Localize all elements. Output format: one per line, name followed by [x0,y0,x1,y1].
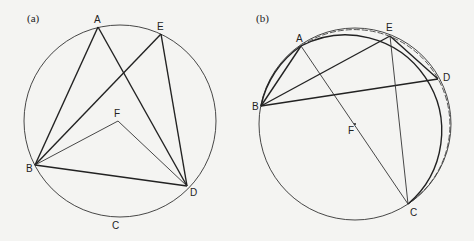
circle-a [24,25,216,217]
arc-AC [301,35,442,204]
point-label-F: F [348,125,354,136]
segment-FB [35,121,118,165]
point-label-D: D [443,72,450,83]
segment-FD [118,121,187,186]
panel-b-label: (b) [256,12,269,25]
point-label-A: A [296,33,303,44]
segment-AC [301,46,408,204]
segment-BD [35,165,187,186]
point-label-A: A [94,14,101,25]
center-dot-F [354,123,356,125]
segment-AB [35,27,98,165]
point-label-F: F [114,108,120,119]
point-label-D: D [190,187,197,198]
panel-a: (a) A E B D F C [24,12,216,231]
point-label-C: C [410,207,417,218]
segment-EC [390,36,408,204]
dashed-arc [301,30,450,204]
segment-EB [35,34,161,165]
point-label-B: B [252,101,259,112]
point-label-C: C [112,220,119,231]
segment-ED [390,36,438,79]
point-label-E: E [386,22,393,33]
segment-BD [261,79,438,106]
point-label-E: E [157,21,164,32]
panel-a-label: (a) [27,12,40,25]
panel-b: (b) A E D B F C [252,12,451,220]
geometry-figure: (a) A E B D F C (b) A E D B F C [0,0,474,241]
segment-BA [261,46,301,106]
point-label-B: B [26,163,33,174]
